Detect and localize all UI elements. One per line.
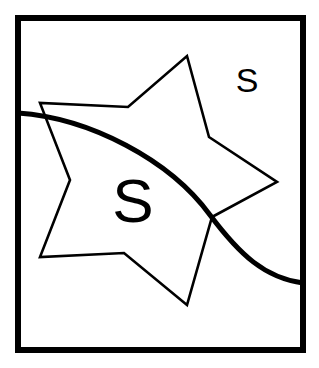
large-s-letter: S xyxy=(112,166,153,235)
figure-canvas: S S xyxy=(0,0,319,368)
outer-rectangle-border xyxy=(18,18,303,350)
line-drawing-svg: S S xyxy=(0,0,319,368)
small-s-letter: S xyxy=(236,61,259,99)
sweeping-arc-curve xyxy=(18,113,303,283)
